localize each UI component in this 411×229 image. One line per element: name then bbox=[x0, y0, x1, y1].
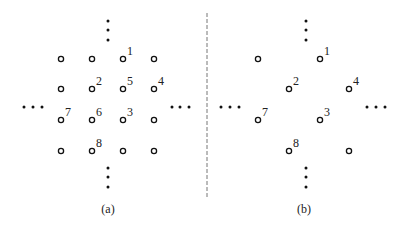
ellipsis-dot-right bbox=[171, 106, 174, 109]
ellipsis-dot-left bbox=[23, 106, 26, 109]
lattice-node bbox=[286, 148, 291, 153]
ellipsis-dot-top bbox=[107, 20, 110, 23]
ellipsis-dot-left bbox=[32, 106, 35, 109]
lattice-node bbox=[120, 148, 125, 153]
panel-b: 124738(b) bbox=[220, 20, 387, 217]
lattice-node bbox=[151, 86, 156, 91]
lattice-node bbox=[286, 86, 291, 91]
node-label: 2 bbox=[96, 74, 102, 88]
ellipsis-dot-right bbox=[366, 106, 369, 109]
node-label: 6 bbox=[96, 105, 102, 119]
lattice-node bbox=[151, 56, 156, 61]
lattice-node bbox=[58, 117, 63, 122]
ellipsis-dot-bottom bbox=[305, 176, 308, 179]
lattice-node bbox=[58, 86, 63, 91]
ellipsis-dot-top bbox=[305, 29, 308, 32]
ellipsis-dot-right bbox=[188, 106, 191, 109]
ellipsis-dot-bottom bbox=[305, 167, 308, 170]
lattice-node bbox=[89, 148, 94, 153]
ellipsis-dot-left bbox=[229, 106, 232, 109]
lattice-node bbox=[317, 56, 322, 61]
lattice-node bbox=[58, 56, 63, 61]
ellipsis-dot-bottom bbox=[107, 176, 110, 179]
ellipsis-dot-bottom bbox=[305, 186, 308, 189]
node-label: 8 bbox=[293, 136, 299, 150]
node-label: 7 bbox=[65, 105, 71, 119]
lattice-node bbox=[89, 56, 94, 61]
panel-caption: (a) bbox=[101, 202, 114, 216]
ellipsis-dot-top bbox=[305, 20, 308, 23]
lattice-node bbox=[120, 56, 125, 61]
lattice-node bbox=[255, 117, 260, 122]
ellipsis-dot-top bbox=[107, 39, 110, 42]
lattice-node bbox=[89, 117, 94, 122]
lattice-node bbox=[255, 56, 260, 61]
node-label: 2 bbox=[293, 74, 299, 88]
lattice-node bbox=[317, 117, 322, 122]
lattice-node bbox=[151, 117, 156, 122]
node-label: 4 bbox=[353, 74, 359, 88]
node-label: 1 bbox=[127, 44, 133, 58]
ellipsis-dot-top bbox=[107, 29, 110, 32]
ellipsis-dot-bottom bbox=[107, 167, 110, 170]
lattice-node bbox=[120, 86, 125, 91]
panel-caption: (b) bbox=[297, 202, 311, 216]
lattice-node bbox=[58, 148, 63, 153]
ellipsis-dot-left bbox=[41, 106, 44, 109]
lattice-node bbox=[89, 86, 94, 91]
ellipsis-dot-right bbox=[384, 106, 387, 109]
node-label: 1 bbox=[324, 44, 330, 58]
panel-a: 12547638(a) bbox=[23, 20, 191, 217]
node-label: 7 bbox=[262, 105, 268, 119]
lattice-node bbox=[151, 148, 156, 153]
ellipsis-dot-right bbox=[375, 106, 378, 109]
node-label: 3 bbox=[324, 105, 330, 119]
ellipsis-dot-left bbox=[238, 106, 241, 109]
node-label: 3 bbox=[127, 105, 133, 119]
node-label: 8 bbox=[96, 136, 102, 150]
lattice-node bbox=[120, 117, 125, 122]
ellipsis-dot-left bbox=[220, 106, 223, 109]
lattice-node bbox=[346, 86, 351, 91]
node-label: 5 bbox=[127, 74, 133, 88]
ellipsis-dot-bottom bbox=[107, 186, 110, 189]
node-label: 4 bbox=[158, 74, 164, 88]
ellipsis-dot-right bbox=[179, 106, 182, 109]
lattice-node bbox=[346, 148, 351, 153]
lattice-figure: 12547638(a) 124738(b) bbox=[0, 0, 411, 229]
ellipsis-dot-top bbox=[305, 39, 308, 42]
